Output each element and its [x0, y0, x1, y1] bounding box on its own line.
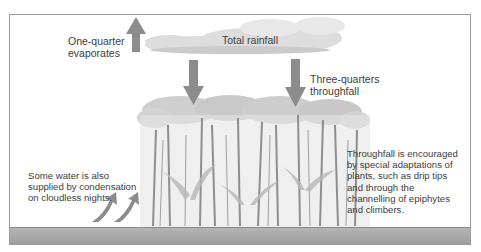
adaptations-note: Throughfall is encouraged by special ada…: [347, 148, 458, 215]
rainfall-label: Total rainfall: [222, 34, 278, 46]
evaporation-arrow-icon: [126, 17, 146, 52]
canopy: [137, 95, 370, 227]
throughfall-label: Three-quarters throughfall: [310, 73, 379, 97]
ground-strip: [10, 227, 470, 245]
condensation-note: Some water is also supplied by condensat…: [28, 170, 136, 204]
evaporation-label: One-quarter evaporates: [68, 35, 125, 59]
